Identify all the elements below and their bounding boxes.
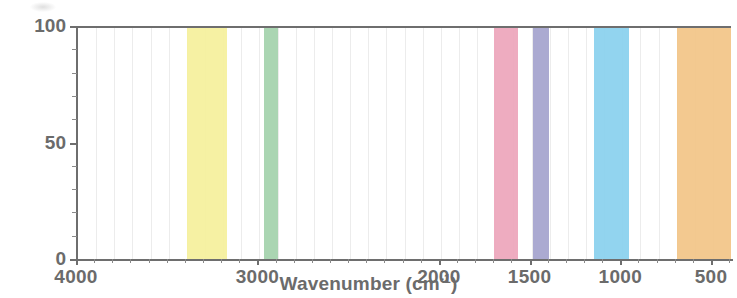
x-tick-minor bbox=[511, 259, 512, 263]
x-tick-minor bbox=[130, 259, 131, 263]
y-tick-minor bbox=[72, 49, 77, 50]
x-tick-minor bbox=[638, 259, 639, 263]
x-tick-minor bbox=[729, 259, 730, 263]
plot-area bbox=[76, 26, 731, 259]
x-tick-minor bbox=[94, 259, 95, 263]
x-axis-title-superscript: -1 bbox=[440, 272, 451, 286]
y-tick-major bbox=[70, 143, 77, 145]
y-tick-minor bbox=[72, 212, 77, 213]
y-tick-minor bbox=[72, 189, 77, 190]
x-tick-major bbox=[257, 259, 259, 265]
x-tick-minor bbox=[330, 259, 331, 263]
x-tick-minor bbox=[675, 259, 676, 263]
band-pink bbox=[494, 28, 518, 259]
x-tick-minor bbox=[312, 259, 313, 263]
x-tick-minor bbox=[239, 259, 240, 263]
x-tick-minor bbox=[185, 259, 186, 263]
x-axis-title: Wavenumber (cm-1) bbox=[0, 272, 737, 295]
y-tick-minor bbox=[72, 119, 77, 120]
x-tick-major bbox=[711, 259, 713, 265]
y-tick-minor bbox=[72, 236, 77, 237]
y-tick-minor bbox=[72, 166, 77, 167]
y-tick-major bbox=[70, 259, 77, 261]
x-tick-minor bbox=[149, 259, 150, 263]
band-purple bbox=[533, 28, 548, 259]
x-tick-minor bbox=[276, 259, 277, 263]
x-tick-minor bbox=[294, 259, 295, 263]
x-axis-title-text: Wavenumber (cm bbox=[279, 273, 439, 294]
x-tick-minor bbox=[203, 259, 204, 263]
x-tick-minor bbox=[221, 259, 222, 263]
x-axis-title-close: ) bbox=[451, 273, 458, 294]
ir-spectrum-band-chart: 40003000200015001000500 050100 Wavenumbe… bbox=[0, 0, 737, 298]
y-tick-label: 0 bbox=[55, 248, 66, 270]
band-green bbox=[264, 28, 278, 259]
y-tick-minor bbox=[72, 73, 77, 74]
x-tick-minor bbox=[584, 259, 585, 263]
x-tick-minor bbox=[457, 259, 458, 263]
y-tick-label: 50 bbox=[45, 132, 66, 154]
x-tick-minor bbox=[421, 259, 422, 263]
x-tick-minor bbox=[167, 259, 168, 263]
x-tick-minor bbox=[112, 259, 113, 263]
x-tick-minor bbox=[366, 259, 367, 263]
x-axis-line bbox=[76, 259, 733, 261]
x-tick-minor bbox=[602, 259, 603, 263]
band-blue bbox=[594, 28, 628, 259]
x-tick-minor bbox=[493, 259, 494, 263]
x-tick-minor bbox=[403, 259, 404, 263]
x-tick-major bbox=[439, 259, 441, 265]
y-tick-label: 100 bbox=[34, 15, 66, 37]
y-tick-major bbox=[70, 26, 77, 28]
scan-artifact-smudge bbox=[30, 2, 56, 12]
x-tick-minor bbox=[348, 259, 349, 263]
band-orange bbox=[677, 28, 731, 259]
x-tick-minor bbox=[475, 259, 476, 263]
x-tick-minor bbox=[693, 259, 694, 263]
absorption-bands-layer bbox=[78, 28, 731, 259]
x-tick-minor bbox=[657, 259, 658, 263]
x-tick-minor bbox=[548, 259, 549, 263]
x-tick-minor bbox=[566, 259, 567, 263]
x-tick-major bbox=[620, 259, 622, 265]
band-yellow bbox=[187, 28, 227, 259]
y-tick-minor bbox=[72, 96, 77, 97]
x-tick-minor bbox=[384, 259, 385, 263]
x-tick-major bbox=[530, 259, 532, 265]
